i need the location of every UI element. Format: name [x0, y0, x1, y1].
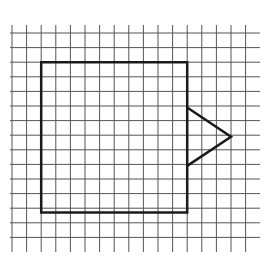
triangle-shape [187, 108, 231, 166]
shapes [41, 62, 231, 212]
grid-diagram: Square on a grid with a triangle attache… [0, 0, 278, 269]
diagram-svg [0, 0, 278, 269]
grid-lines [10, 25, 260, 252]
